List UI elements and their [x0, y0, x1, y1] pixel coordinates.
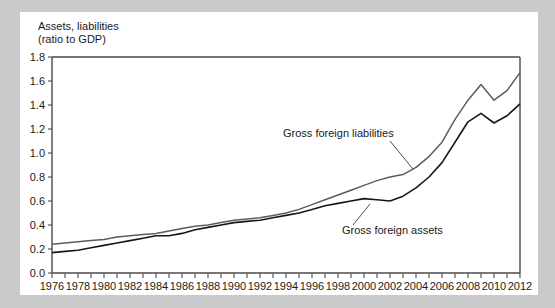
x-axis-tick-label: 2002	[378, 280, 402, 292]
x-axis-tick-label: 2010	[482, 280, 506, 292]
y-axis-tick-label: 0.4	[30, 219, 45, 231]
x-axis-tick-label: 1976	[40, 280, 64, 292]
x-axis-tick-label: 2004	[404, 280, 428, 292]
y-axis-tick-label: 0.8	[30, 171, 45, 183]
x-axis-tick-label: 2012	[508, 280, 532, 292]
y-axis-tick-label: 1.6	[30, 75, 45, 87]
x-axis-tick-label: 2006	[430, 280, 454, 292]
y-axis-tick-label: 0.0	[30, 267, 45, 279]
y-axis-tick-label: 1.4	[30, 99, 45, 111]
x-axis-tick-label: 1990	[222, 280, 246, 292]
x-axis-tick-label: 2000	[352, 280, 376, 292]
y-axis-tick-label: 1.8	[30, 51, 45, 63]
y-axis-tick-label: 1.2	[30, 123, 45, 135]
chart-card: Assets, liabilities (ratio to GDP) 0.00.…	[20, 12, 538, 295]
annotation-leader-assets	[353, 204, 370, 225]
annotation-label-assets: Gross foreign assets	[342, 224, 443, 236]
x-axis-tick-label: 1978	[66, 280, 90, 292]
x-axis-tick-label: 1980	[92, 280, 116, 292]
x-axis-tick-label: 1982	[118, 280, 142, 292]
x-axis-tick-label: 1998	[326, 280, 350, 292]
annotation-leader-liabilities	[390, 141, 413, 169]
annotation-label-liabilities: Gross foreign liabilities	[283, 127, 394, 139]
x-axis-tick-label: 2008	[456, 280, 480, 292]
x-axis-tick-label: 1984	[144, 280, 168, 292]
y-axis-tick-label: 0.6	[30, 195, 45, 207]
x-axis-tick-label: 1986	[170, 280, 194, 292]
line-chart: 0.00.20.40.60.81.01.21.41.61.81976197819…	[20, 12, 538, 295]
y-axis-tick-label: 0.2	[30, 243, 45, 255]
y-axis-tick-label: 1.0	[30, 147, 45, 159]
x-axis-tick-label: 1996	[300, 280, 324, 292]
chart-plot-area: 0.00.20.40.60.81.01.21.41.61.81976197819…	[20, 12, 538, 295]
x-axis-tick-label: 1988	[196, 280, 220, 292]
series-line-liabilities	[52, 73, 520, 245]
x-axis-tick-label: 1994	[274, 280, 298, 292]
x-axis-tick-label: 1992	[248, 280, 272, 292]
